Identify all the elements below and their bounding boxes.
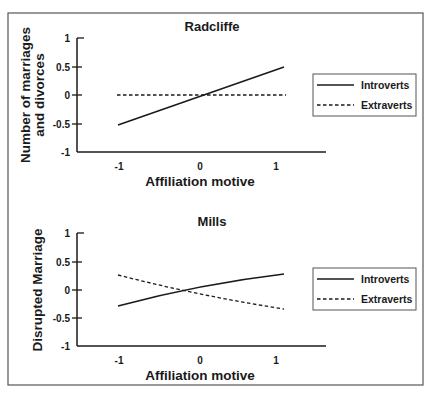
y-tick-label: 0.5 — [56, 62, 70, 73]
y-tick-label: 1 — [64, 228, 70, 239]
series-introverts — [118, 67, 284, 125]
x-axis-label: Affiliation motive — [145, 174, 255, 189]
legend-label-extraverts: Extraverts — [361, 293, 413, 305]
chart-radcliffe: Radcliffe 1 0.5 0 -0.5 -1 -1 0 1 Affilia… — [18, 19, 416, 189]
x-tick-label: 1 — [273, 161, 279, 172]
chart-mills: Mills 1 0.5 0 -0.5 -1 -1 0 1 Affiliation… — [30, 214, 416, 383]
y-ticks: 1 0.5 0 -0.5 -1 — [53, 228, 84, 352]
y-tick-label: 0 — [64, 285, 70, 296]
y-axis-label: Disrupted Marriage — [30, 228, 45, 352]
x-tick-label: -1 — [115, 355, 124, 366]
x-axis-label: Affiliation motive — [145, 368, 255, 383]
y-tick-label: -1 — [61, 341, 70, 352]
x-tick-label: 0 — [197, 355, 203, 366]
x-tick-label: 0 — [197, 161, 203, 172]
chart-title: Mills — [198, 214, 227, 229]
y-tick-label: 0.5 — [56, 257, 70, 268]
svg-text:and divorces: and divorces — [32, 53, 47, 136]
y-axis-label: Number of marriages and divorces — [18, 27, 47, 163]
y-tick-label: 0 — [64, 90, 70, 101]
legend-label-introverts: Introverts — [361, 79, 410, 91]
figure-frame — [8, 13, 423, 385]
x-tick-label: -1 — [115, 161, 124, 172]
chart-title: Radcliffe — [185, 19, 240, 34]
figure: Radcliffe 1 0.5 0 -0.5 -1 -1 0 1 Affilia… — [0, 0, 431, 394]
y-tick-label: -1 — [61, 147, 70, 158]
x-ticks: -1 0 1 — [115, 355, 280, 366]
y-tick-label: -0.5 — [53, 119, 71, 130]
series-extraverts — [118, 275, 284, 309]
legend-label-extraverts: Extraverts — [361, 99, 413, 111]
y-tick-label: -0.5 — [53, 313, 71, 324]
svg-text:Number of marriages: Number of marriages — [18, 27, 33, 163]
x-tick-label: 1 — [273, 355, 279, 366]
y-ticks: 1 0.5 0 -0.5 -1 — [53, 33, 84, 158]
y-tick-label: 1 — [64, 33, 70, 44]
x-ticks: -1 0 1 — [115, 161, 280, 172]
legend-label-introverts: Introverts — [361, 273, 410, 285]
legend: Introverts Extraverts — [313, 74, 416, 116]
svg-text:Disrupted Marriage: Disrupted Marriage — [30, 228, 45, 352]
series-introverts — [118, 274, 284, 306]
legend: Introverts Extraverts — [313, 268, 416, 310]
